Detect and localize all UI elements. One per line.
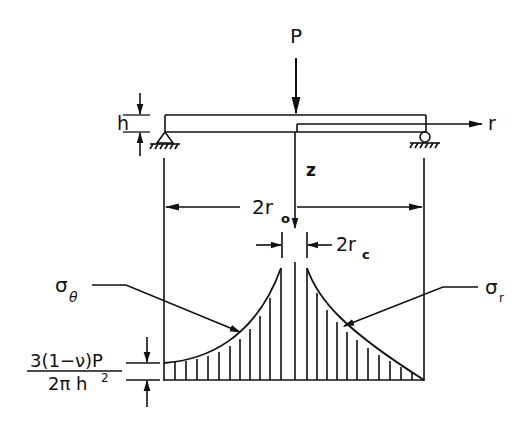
thickness-label: h [117, 112, 129, 134]
svg-text:σ: σ [485, 275, 498, 299]
load-label: P [290, 24, 302, 48]
svg-text:o: o [281, 211, 290, 226]
edge-stress-formula: 3(1−ν)P 2π h 2 [30, 350, 109, 394]
svg-text:2r: 2r [336, 233, 356, 255]
svg-text:c: c [362, 247, 370, 262]
outer-diameter-label: 2r o [252, 195, 290, 226]
svg-text:θ: θ [69, 289, 78, 305]
radial-axis-label: r [488, 112, 496, 134]
svg-text:r: r [499, 291, 504, 305]
radial-stress-leader [344, 287, 478, 326]
plate-stress-diagram: P h r z 2r o 2r c σ θ σ r 3(1−ν)P 2π h 2 [0, 0, 532, 433]
svg-text:2r: 2r [252, 195, 274, 219]
radial-stress-label: σ r [485, 275, 504, 305]
edge-stress-dimension [27, 337, 160, 407]
tangential-stress-label: σ θ [55, 273, 78, 305]
pin-support-icon [150, 132, 180, 149]
tangential-stress-leader [92, 285, 240, 332]
formula-exponent: 2 [101, 371, 109, 385]
formula-numerator: 3(1−ν)P [30, 350, 103, 371]
svg-text:σ: σ [55, 273, 68, 297]
contact-diameter-dimension [256, 232, 332, 258]
stress-distribution [164, 262, 424, 380]
radial-axis [297, 124, 482, 132]
roller-support-icon [410, 132, 440, 148]
formula-denominator: 2π h [48, 373, 87, 394]
extension-lines [164, 158, 424, 381]
contact-diameter-label: 2r c [336, 233, 370, 262]
axial-axis-label: z [306, 160, 316, 180]
